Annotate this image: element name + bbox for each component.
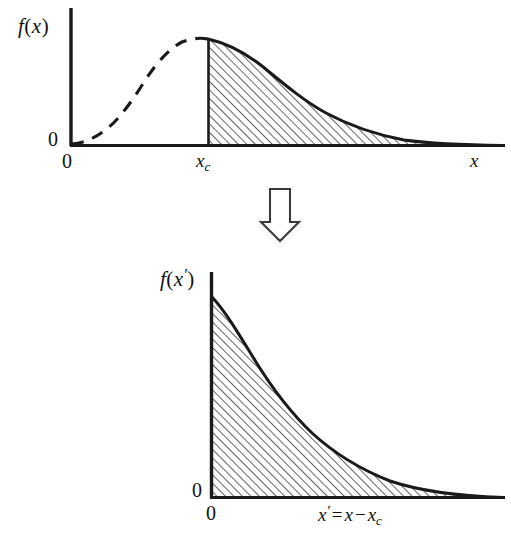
lower-y-axis-label: f(x′) [160,267,195,290]
down-arrow-icon [261,189,299,241]
upper-cut-tick-label: xc [196,151,210,174]
figure-canvas [0,0,511,540]
upper-shaded-region [205,30,505,150]
lower-plot-group [209,272,509,503]
lower-x-origin-tick-label: 0 [206,503,216,523]
upper-x-axis-label: x [470,151,478,170]
lower-shaded-region [209,288,509,503]
upper-plot-group [70,8,505,150]
upper-y-origin-tick-label: 0 [48,129,58,149]
upper-curve-dashed [72,38,208,144]
upper-x-origin-tick-label: 0 [62,151,72,171]
lower-y-origin-tick-label: 0 [192,480,202,500]
lower-x-axis-label: x′=x−xc [318,503,382,528]
figure-container: f(x) 0 0 xc x f(x′) 0 0 x′=x−xc [0,0,511,540]
upper-y-axis-label: f(x) [18,16,49,37]
